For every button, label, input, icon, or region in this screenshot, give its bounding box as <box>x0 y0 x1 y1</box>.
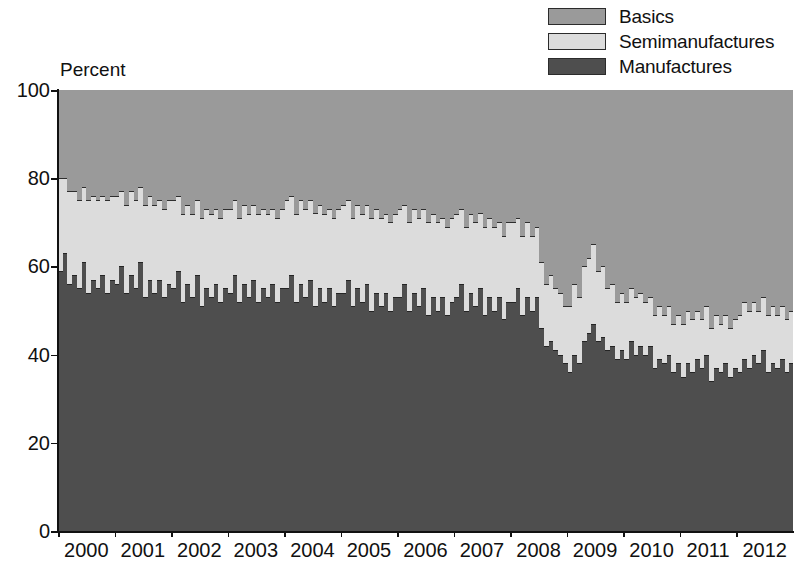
x-tick-mark <box>171 531 173 537</box>
y-axis-line <box>57 89 59 532</box>
y-tick-mark <box>51 90 58 92</box>
x-tick-label: 2000 <box>58 539 115 561</box>
y-tick-label: 80 <box>2 168 50 188</box>
y-tick-label: 20 <box>2 433 50 453</box>
legend-label-manufactures: Manufactures <box>619 57 732 76</box>
x-tick-label: 2003 <box>228 539 285 561</box>
x-tick-label: 2002 <box>171 539 228 561</box>
legend-item-manufactures: Manufactures <box>548 54 806 79</box>
bar-series-container <box>58 90 793 531</box>
x-tick-label: 2007 <box>454 539 511 561</box>
legend-item-semimanufactures: Semimanufactures <box>548 29 806 54</box>
x-tick-mark <box>567 531 569 537</box>
y-tick-label: 60 <box>2 256 50 276</box>
plot-area <box>58 90 793 531</box>
x-tick-label: 2012 <box>736 539 793 561</box>
x-axis-ticks: 2000200120022003200420052006200720082009… <box>58 539 793 561</box>
chart-legend: Basics Semimanufactures Manufactures <box>548 4 806 79</box>
y-tick-label: 100 <box>2 80 50 100</box>
y-tick-label: 40 <box>2 345 50 365</box>
y-tick-mark <box>51 355 58 357</box>
x-tick-mark <box>510 531 512 537</box>
legend-label-basics: Basics <box>619 7 674 26</box>
x-tick-mark <box>115 531 117 537</box>
y-tick-mark <box>51 531 58 533</box>
x-axis-line <box>57 531 794 533</box>
legend-label-semimanufactures: Semimanufactures <box>619 32 774 51</box>
x-tick-mark <box>228 531 230 537</box>
x-tick-label: 2004 <box>284 539 341 561</box>
legend-swatch-semimanufactures <box>548 33 606 50</box>
x-tick-mark <box>680 531 682 537</box>
x-tick-label: 2010 <box>623 539 680 561</box>
stacked-bar-chart: Basics Semimanufactures Manufactures Per… <box>0 0 808 569</box>
x-tick-mark <box>341 531 343 537</box>
y-tick-label: 0 <box>2 521 50 541</box>
y-tick-mark <box>51 443 58 445</box>
x-tick-label: 2006 <box>397 539 454 561</box>
bar-segment-manufactures <box>789 363 793 531</box>
legend-swatch-basics <box>548 8 606 25</box>
x-tick-mark <box>397 531 399 537</box>
y-tick-mark <box>51 266 58 268</box>
bar-segment-semimanufactures <box>789 311 793 364</box>
x-tick-mark <box>58 531 60 537</box>
legend-swatch-manufactures <box>548 58 606 75</box>
bar-column <box>789 90 793 531</box>
y-axis-ticks: 100806040200 <box>0 0 50 569</box>
x-tick-label: 2011 <box>680 539 737 561</box>
y-axis-label: Percent <box>60 60 125 79</box>
x-tick-mark <box>454 531 456 537</box>
y-tick-mark <box>51 178 58 180</box>
x-tick-mark <box>623 531 625 537</box>
legend-item-basics: Basics <box>548 4 806 29</box>
x-tick-label: 2009 <box>567 539 624 561</box>
x-tick-label: 2005 <box>341 539 398 561</box>
x-tick-label: 2008 <box>510 539 567 561</box>
x-tick-label: 2001 <box>115 539 172 561</box>
x-tick-mark <box>736 531 738 537</box>
x-tick-mark <box>284 531 286 537</box>
